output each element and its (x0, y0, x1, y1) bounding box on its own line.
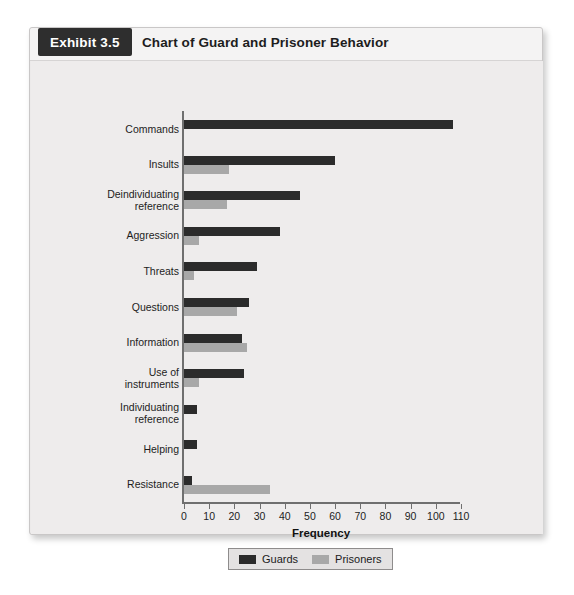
screenshot-root: Exhibit 3.5 Chart of Guard and Prisoner … (0, 0, 574, 595)
x-axis-tick-label: 10 (203, 510, 215, 522)
bar-guards (184, 227, 280, 236)
bar-guards (184, 369, 244, 378)
x-axis-tick (184, 504, 185, 509)
x-axis-tick (310, 504, 311, 509)
category-label: Aggression (29, 229, 179, 241)
legend-swatch-prisoners (312, 555, 329, 564)
x-axis-tick-label: 70 (354, 510, 366, 522)
bar-guards (184, 334, 242, 343)
x-axis-tick (260, 504, 261, 509)
bar-guards (184, 405, 197, 414)
category-label: Resistance (29, 478, 179, 490)
x-axis-tick-label: 0 (181, 510, 187, 522)
bar-chart-plot: Frequency 0102030405060708090100110Comma… (31, 61, 543, 534)
category-label: Questions (29, 301, 179, 313)
legend-label-prisoners: Prisoners (335, 553, 381, 565)
x-axis-tick (385, 504, 386, 509)
bar-guards (184, 298, 249, 307)
exhibit-header: Exhibit 3.5 Chart of Guard and Prisoner … (30, 28, 542, 61)
x-axis-line (182, 502, 460, 504)
bar-guards (184, 440, 197, 449)
bar-prisoners (184, 165, 229, 174)
x-axis-tick-label: 40 (279, 510, 291, 522)
bar-prisoners (184, 236, 199, 245)
bar-guards (184, 262, 257, 271)
legend-item-prisoners: Prisoners (312, 553, 381, 565)
x-axis-tick-label: 30 (254, 510, 266, 522)
x-axis-tick (234, 504, 235, 509)
legend-swatch-guards (239, 555, 256, 564)
x-axis-tick (461, 504, 462, 509)
category-label: Commands (29, 123, 179, 135)
x-axis-tick (335, 504, 336, 509)
x-axis-tick-label: 80 (380, 510, 392, 522)
bar-prisoners (184, 307, 237, 316)
x-axis-tick-label: 50 (304, 510, 316, 522)
x-axis-tick-label: 60 (329, 510, 341, 522)
bar-prisoners (184, 200, 227, 209)
chart-panel: Frequency 0102030405060708090100110Comma… (31, 61, 543, 534)
bar-prisoners (184, 485, 270, 494)
exhibit-card: Exhibit 3.5 Chart of Guard and Prisoner … (29, 27, 543, 535)
category-label: Use of instruments (29, 366, 179, 390)
x-axis-title: Frequency (182, 527, 460, 539)
category-label: Threats (29, 265, 179, 277)
x-axis-tick (436, 504, 437, 509)
x-axis-tick-label: 20 (229, 510, 241, 522)
category-label: Deindividuating reference (29, 188, 179, 212)
x-axis-tick-label: 100 (427, 510, 445, 522)
bar-guards (184, 120, 453, 129)
x-axis-tick (285, 504, 286, 509)
category-label: Information (29, 336, 179, 348)
bar-prisoners (184, 343, 247, 352)
bar-guards (184, 191, 300, 200)
bar-prisoners (184, 271, 194, 280)
bar-guards (184, 476, 192, 485)
legend-item-guards: Guards (239, 553, 298, 565)
x-axis-tick-label: 90 (405, 510, 417, 522)
exhibit-number-tab: Exhibit 3.5 (38, 28, 132, 56)
chart-legend: Guards Prisoners (228, 548, 393, 570)
x-axis-tick (360, 504, 361, 509)
x-axis-tick (411, 504, 412, 509)
exhibit-title: Chart of Guard and Prisoner Behavior (142, 28, 389, 56)
bar-prisoners (184, 378, 199, 387)
x-axis-tick (209, 504, 210, 509)
legend-label-guards: Guards (262, 553, 298, 565)
bar-guards (184, 156, 335, 165)
category-label: Insults (29, 158, 179, 170)
x-axis-tick-label: 110 (453, 510, 470, 522)
category-label: Individuating reference (29, 401, 179, 425)
category-label: Helping (29, 443, 179, 455)
